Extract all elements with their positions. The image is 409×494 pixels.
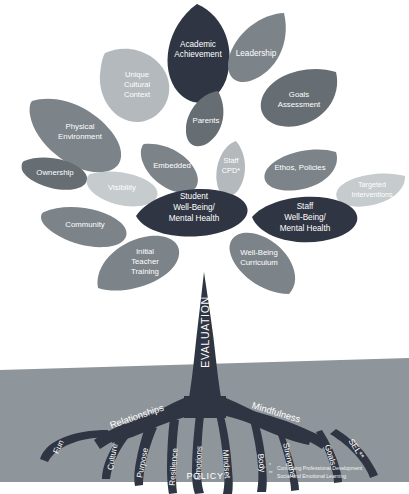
wellbeing-tree-diagram: Fun Culture Relationships Purpose Resili…	[0, 0, 409, 494]
footnote-marker-2: **	[269, 471, 273, 476]
footnote-marker-1: *	[269, 463, 271, 468]
